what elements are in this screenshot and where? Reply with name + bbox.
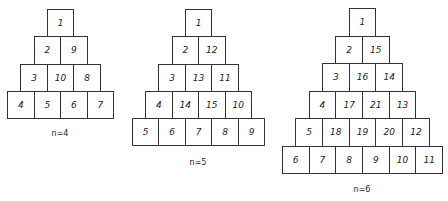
pyramid-cell: 6: [282, 146, 310, 175]
pyramid-cell: 6: [158, 118, 186, 146]
pyramid-cell: 8: [73, 64, 101, 92]
pyramid-cell: 3: [322, 63, 350, 92]
pyramid-cell: 21: [362, 91, 390, 120]
pyramid-cell: 7: [309, 146, 337, 175]
pyramid-cell: 3: [158, 64, 186, 92]
pyramid-cell: 12: [198, 36, 226, 64]
pyramid-cell: 4: [145, 91, 173, 119]
pyramid-label: n=5: [190, 158, 207, 167]
pyramid-cell: 10: [225, 91, 253, 119]
pyramid-cell: 14: [172, 91, 200, 119]
pyramid-cell: 19: [349, 118, 377, 147]
pyramid-cell: 20: [375, 118, 403, 147]
pyramid-cell: 4: [309, 91, 337, 120]
pyramid-cell: 15: [198, 91, 226, 119]
pyramid-cell: 1: [47, 9, 75, 37]
pyramid-cell: 7: [185, 118, 213, 146]
pyramid-cell: 8: [211, 118, 239, 146]
pyramid-cell: 1: [349, 8, 377, 37]
pyramid-cell: 13: [185, 64, 213, 92]
pyramid-cell: 12: [402, 118, 430, 147]
pyramid-cell: 9: [60, 36, 88, 64]
pyramid-cell: 1: [185, 9, 213, 37]
pyramid-cell: 8: [335, 146, 363, 175]
pyramid-cell: 14: [375, 63, 403, 92]
pyramid-cell: 5: [34, 91, 62, 119]
pyramid-cell: 15: [362, 36, 390, 65]
pyramid-cell: 5: [132, 118, 160, 146]
pyramid-cell: 2: [34, 36, 62, 64]
pyramid-cell: 5: [295, 118, 323, 147]
pyramid-label: n=4: [52, 129, 69, 138]
pyramid-cell: 4: [7, 91, 35, 119]
pyramid-cell: 18: [322, 118, 350, 147]
pyramid-cell: 13: [389, 91, 417, 120]
pyramid-cell: 3: [20, 64, 48, 92]
pyramid-cell: 10: [47, 64, 75, 92]
pyramid-cell: 10: [389, 146, 417, 175]
pyramid-cell: 9: [238, 118, 266, 146]
pyramid-cell: 9: [362, 146, 390, 175]
pyramid-label: n=6: [354, 185, 371, 194]
pyramid-cell: 11: [415, 146, 443, 175]
pyramid-cell: 11: [211, 64, 239, 92]
pyramid-cell: 16: [349, 63, 377, 92]
pyramid-cell: 2: [172, 36, 200, 64]
pyramid-cell: 2: [335, 36, 363, 65]
pyramid-cell: 6: [60, 91, 88, 119]
pyramid-cell: 7: [87, 91, 115, 119]
pyramid-cell: 17: [335, 91, 363, 120]
